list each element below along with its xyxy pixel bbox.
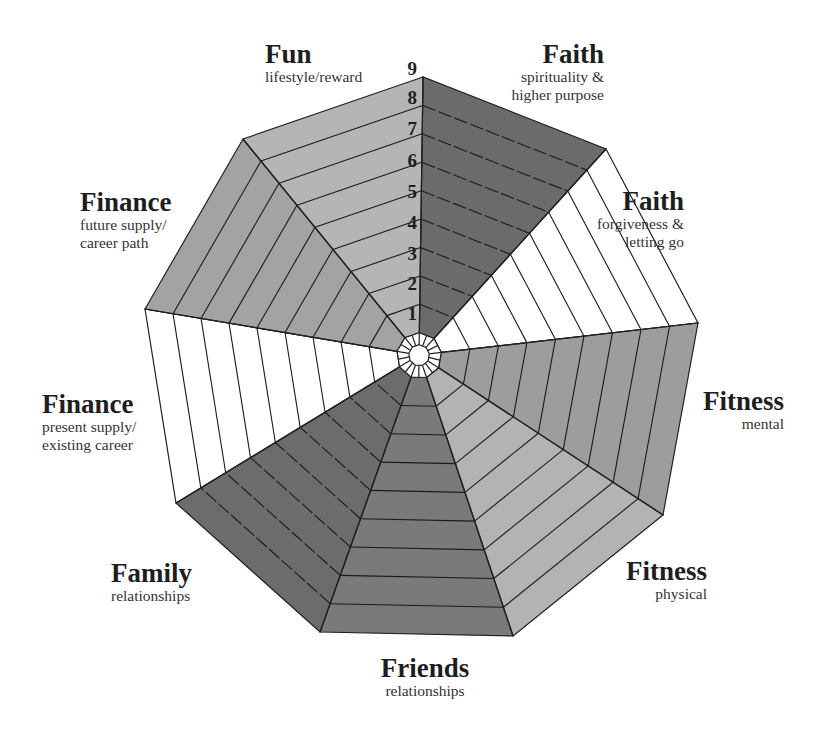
label-subtitle: lifestyle/reward: [265, 68, 362, 86]
ring-line: [401, 405, 436, 406]
label-subtitle: letting go: [597, 233, 684, 251]
label-title: Fun: [265, 41, 362, 68]
scale-number-7: 7: [397, 118, 417, 140]
label-subtitle: future supply/: [80, 216, 172, 234]
scale-number-5: 5: [397, 181, 417, 203]
label-title: Fitness: [703, 388, 784, 415]
label-finance-present: Finance present supply/ existing career: [42, 391, 136, 454]
label-finance-future: Finance future supply/ career path: [80, 189, 172, 252]
label-fun: Fun lifestyle/reward: [265, 41, 362, 86]
label-friends: Friends relationships: [370, 655, 480, 700]
scale-number-2: 2: [397, 273, 417, 295]
label-fitness-physical: Fitness physical: [626, 558, 707, 603]
label-title: Fitness: [626, 558, 707, 585]
scale-number-1: 1: [397, 303, 417, 325]
label-subtitle: existing career: [42, 436, 136, 454]
label-subtitle: mental: [703, 415, 784, 433]
label-title: Finance: [42, 391, 136, 418]
label-subtitle: higher purpose: [511, 86, 604, 104]
scale-number-3: 3: [397, 243, 417, 265]
label-subtitle: relationships: [370, 682, 480, 700]
scale-number-4: 4: [397, 212, 417, 234]
scale-number-9: 9: [397, 58, 417, 80]
label-subtitle: forgiveness &: [597, 215, 684, 233]
label-title: Friends: [370, 655, 480, 682]
scale-number-8: 8: [397, 87, 417, 109]
label-fitness-mental: Fitness mental: [703, 388, 784, 433]
label-subtitle: spirituality &: [511, 68, 604, 86]
label-title: Faith: [597, 188, 684, 215]
label-subtitle: present supply/: [42, 418, 136, 436]
label-faith-spirituality: Faith spirituality & higher purpose: [511, 41, 604, 104]
label-subtitle: physical: [626, 585, 707, 603]
label-title: Family: [111, 560, 192, 587]
label-title: Finance: [80, 189, 172, 216]
life-wheel-diagram: [0, 0, 816, 735]
scale-number-6: 6: [397, 150, 417, 172]
label-title: Faith: [511, 41, 604, 68]
label-subtitle: career path: [80, 234, 172, 252]
label-family: Family relationships: [111, 560, 192, 605]
label-faith-forgiveness: Faith forgiveness & letting go: [597, 188, 684, 251]
label-subtitle: relationships: [111, 587, 192, 605]
center-polygon: [409, 345, 429, 366]
